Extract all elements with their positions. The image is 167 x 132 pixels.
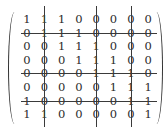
matrix-cell: 0 — [54, 80, 70, 94]
matrix-cell: 0 — [140, 53, 156, 67]
matrix: 1110000001110000001110000001110000001110… — [0, 0, 167, 132]
matrix-cell: 0 — [19, 80, 35, 94]
matrix-cell: 0 — [19, 39, 35, 53]
row-strike-line — [21, 101, 157, 102]
matrix-cell: 0 — [19, 53, 35, 67]
matrix-cell: 0 — [54, 107, 70, 121]
matrix-cell: 0 — [140, 39, 156, 53]
matrix-cell: 1 — [19, 12, 35, 26]
column-strike-line — [131, 6, 132, 127]
matrix-cell: 1 — [106, 53, 122, 67]
matrix-cell: 1 — [54, 12, 70, 26]
matrix-cell: 0 — [140, 12, 156, 26]
matrix-cell: 0 — [106, 12, 122, 26]
matrix-cell: 0 — [71, 80, 87, 94]
matrix-cell: 0 — [106, 39, 122, 53]
matrix-cell: 1 — [106, 80, 122, 94]
matrix-cell: 1 — [19, 107, 35, 121]
matrix-cell: 0 — [106, 107, 122, 121]
matrix-cell: 0 — [54, 53, 70, 67]
matrix-cell: 1 — [140, 80, 156, 94]
matrix-cell: 0 — [71, 107, 87, 121]
row-strike-line — [21, 73, 157, 74]
column-strike-line — [44, 6, 45, 127]
column-strike-line — [96, 6, 97, 127]
matrix-cell: 0 — [71, 12, 87, 26]
matrix-cell: 1 — [140, 107, 156, 121]
matrix-cell: 1 — [71, 53, 87, 67]
left-parenthesis — [8, 12, 19, 124]
row-strike-line — [21, 33, 157, 34]
matrix-cell: 1 — [71, 39, 87, 53]
matrix-cell: 1 — [54, 39, 70, 53]
